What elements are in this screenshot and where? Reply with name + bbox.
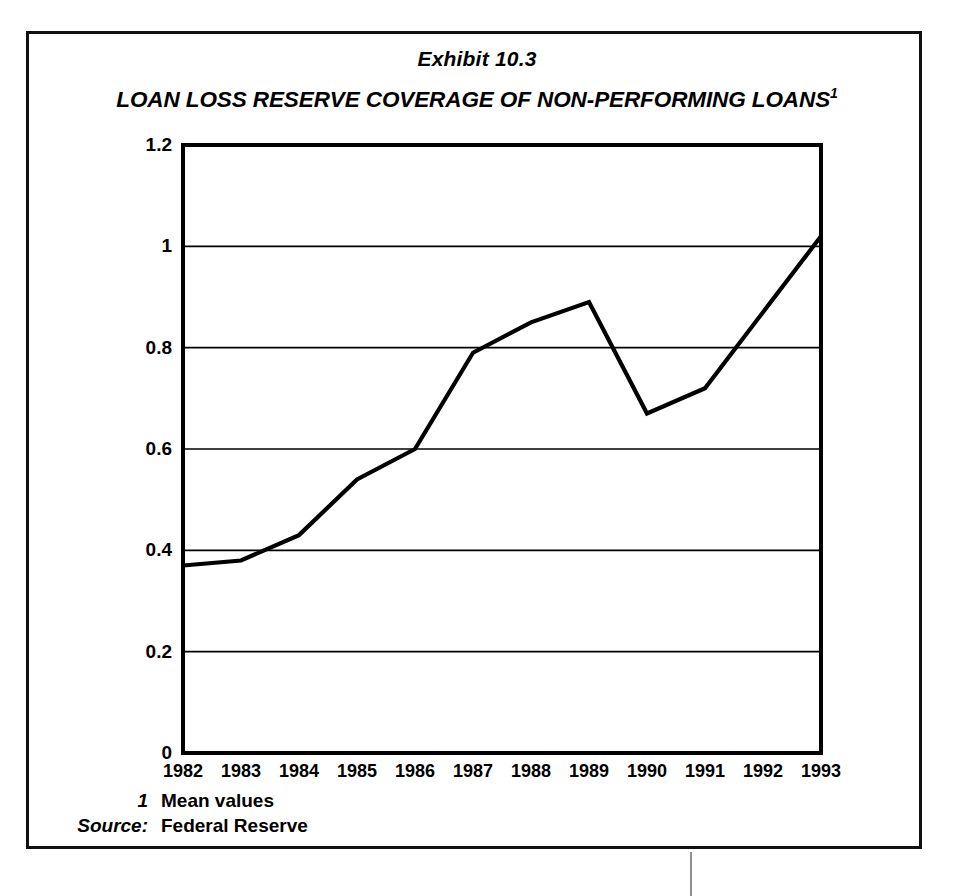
x-axis-tick-label: 1989 bbox=[569, 761, 609, 782]
exhibit-frame: Exhibit 10.3 LOAN LOSS RESERVE COVERAGE … bbox=[26, 31, 922, 849]
scan-artifact-line bbox=[690, 852, 692, 896]
x-axis-tick-label: 1992 bbox=[743, 761, 783, 782]
footnotes: 1Mean valuesSource:Federal Reserve bbox=[55, 790, 555, 840]
chart-title: LOAN LOSS RESERVE COVERAGE OF NON-PERFOR… bbox=[29, 85, 925, 113]
y-axis-tick-label: 0.8 bbox=[146, 337, 172, 359]
footnote-value: Mean values bbox=[161, 790, 274, 812]
x-axis-tick-label: 1993 bbox=[801, 761, 841, 782]
x-axis-tick-label: 1982 bbox=[163, 761, 203, 782]
footnote-row: Source:Federal Reserve bbox=[55, 815, 555, 837]
page-canvas: Exhibit 10.3 LOAN LOSS RESERVE COVERAGE … bbox=[0, 0, 961, 896]
x-axis-tick-label: 1988 bbox=[511, 761, 551, 782]
x-axis-tick-label: 1990 bbox=[627, 761, 667, 782]
gridlines bbox=[183, 246, 821, 651]
y-axis-tick-label: 1.2 bbox=[146, 134, 172, 156]
y-axis-tick-label: 0.2 bbox=[146, 641, 172, 663]
x-axis-tick-label: 1986 bbox=[395, 761, 435, 782]
footnote-row: 1Mean values bbox=[55, 790, 555, 812]
x-axis-tick-label: 1983 bbox=[221, 761, 261, 782]
x-axis-tick-label: 1987 bbox=[453, 761, 493, 782]
line-chart-svg bbox=[181, 143, 823, 755]
y-axis-tick-label: 0.4 bbox=[146, 539, 172, 561]
data-series-line bbox=[183, 236, 821, 565]
footnote-value: Federal Reserve bbox=[161, 815, 308, 837]
y-axis-tick-label: 0.6 bbox=[146, 438, 172, 460]
exhibit-label: Exhibit 10.3 bbox=[29, 47, 925, 71]
x-axis-ticks: 1982198319841985198619871988198919901991… bbox=[181, 755, 823, 785]
chart-title-footnote-marker: 1 bbox=[830, 85, 838, 101]
chart-title-text: LOAN LOSS RESERVE COVERAGE OF NON-PERFOR… bbox=[116, 87, 830, 112]
footnote-key: 1 bbox=[55, 790, 161, 812]
footnote-key: Source: bbox=[55, 815, 161, 837]
x-axis-tick-label: 1991 bbox=[685, 761, 725, 782]
y-axis-tick-label: 1 bbox=[161, 235, 172, 257]
chart-plot-area: 00.20.40.60.811.2 1982198319841985198619… bbox=[181, 143, 823, 755]
x-axis-tick-label: 1984 bbox=[279, 761, 319, 782]
x-axis-tick-label: 1985 bbox=[337, 761, 377, 782]
